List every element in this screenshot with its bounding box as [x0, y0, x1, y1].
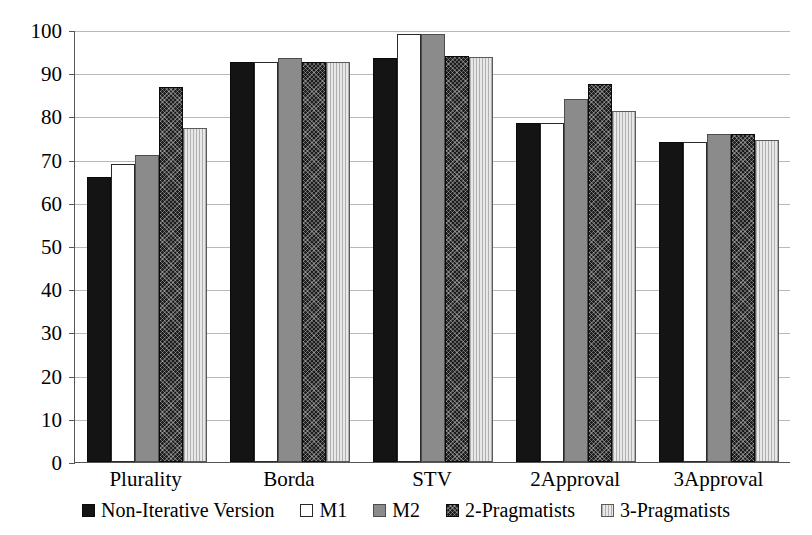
legend-swatch-icon — [300, 504, 313, 517]
x-tick-label: STV — [412, 466, 452, 492]
bar-group — [659, 31, 779, 462]
y-tick-mark — [69, 463, 75, 464]
legend-item[interactable]: 3-Pragmatists — [601, 500, 730, 520]
bar[interactable] — [278, 58, 302, 462]
bar[interactable] — [159, 87, 183, 462]
y-axis-labels: 100 90 80 70 60 50 40 30 20 10 0 — [0, 31, 66, 463]
y-tick-mark — [69, 204, 75, 205]
bar[interactable] — [87, 177, 111, 462]
legend-swatch-icon — [373, 504, 386, 517]
y-tick-mark — [69, 31, 75, 32]
bar[interactable] — [135, 155, 159, 462]
bar[interactable] — [230, 62, 254, 462]
bar[interactable] — [731, 134, 755, 462]
bar[interactable] — [707, 134, 731, 462]
bar[interactable] — [683, 142, 707, 462]
bar-group — [87, 31, 207, 462]
y-tick-mark — [69, 377, 75, 378]
chart-legend: Non-Iterative VersionM1M22-Pragmatists3-… — [0, 500, 812, 520]
bar[interactable] — [755, 140, 779, 462]
bar[interactable] — [445, 56, 469, 462]
y-tick-mark — [69, 333, 75, 334]
y-tick-mark — [69, 74, 75, 75]
legend-item[interactable]: Non-Iterative Version — [82, 500, 274, 520]
bar[interactable] — [540, 123, 564, 462]
legend-label: M2 — [392, 500, 420, 520]
bar[interactable] — [516, 123, 540, 462]
legend-item[interactable]: 2-Pragmatists — [446, 500, 575, 520]
bar[interactable] — [564, 99, 588, 462]
legend-label: M1 — [319, 500, 347, 520]
y-tick-label: 80 — [41, 107, 62, 128]
plot-area — [74, 31, 790, 463]
legend-label: Non-Iterative Version — [101, 500, 274, 520]
x-tick-label: 2Approval — [530, 466, 620, 492]
legend-label: 2-Pragmatists — [465, 500, 575, 520]
legend-item[interactable]: M2 — [373, 500, 420, 520]
bar-group — [516, 31, 636, 462]
y-tick-label: 30 — [41, 323, 62, 344]
legend-label: 3-Pragmatists — [620, 500, 730, 520]
legend-swatch-icon — [446, 504, 459, 517]
legend-item[interactable]: M1 — [300, 500, 347, 520]
bar[interactable] — [588, 84, 612, 462]
y-tick-label: 50 — [41, 237, 62, 258]
bar[interactable] — [326, 62, 350, 462]
bar[interactable] — [302, 62, 326, 462]
y-tick-mark — [69, 420, 75, 421]
y-tick-label: 0 — [52, 453, 63, 474]
y-tick-label: 10 — [41, 409, 62, 430]
y-tick-label: 40 — [41, 280, 62, 301]
legend-swatch-icon — [601, 504, 614, 517]
x-tick-label: Borda — [263, 466, 314, 492]
bar[interactable] — [421, 34, 445, 462]
y-tick-label: 60 — [41, 193, 62, 214]
bar[interactable] — [469, 57, 493, 462]
y-tick-mark — [69, 247, 75, 248]
y-tick-mark — [69, 117, 75, 118]
x-axis-labels: PluralityBordaSTV2Approval3Approval — [74, 466, 790, 494]
bar[interactable] — [659, 142, 683, 462]
y-tick-label: 20 — [41, 366, 62, 387]
bar[interactable] — [254, 62, 278, 462]
y-tick-label: 70 — [41, 150, 62, 171]
y-tick-label: 90 — [41, 64, 62, 85]
x-tick-label: 3Approval — [673, 466, 763, 492]
y-tick-label: 100 — [31, 21, 63, 42]
bar[interactable] — [397, 34, 421, 462]
y-tick-mark — [69, 290, 75, 291]
bar-group — [373, 31, 493, 462]
bar[interactable] — [183, 128, 207, 462]
x-tick-label: Plurality — [109, 466, 181, 492]
bar-group — [230, 31, 350, 462]
bar[interactable] — [373, 58, 397, 462]
bar[interactable] — [111, 164, 135, 462]
y-tick-mark — [69, 161, 75, 162]
legend-swatch-icon — [82, 504, 95, 517]
bar[interactable] — [612, 111, 636, 462]
bar-chart: 100 90 80 70 60 50 40 30 20 10 0 Plurali… — [0, 0, 812, 535]
